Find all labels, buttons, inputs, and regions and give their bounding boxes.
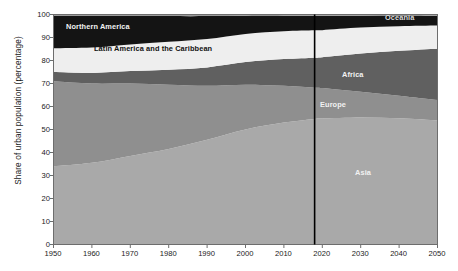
x-tick-1950: 1950 [33,250,73,258]
x-tick-1960: 1960 [71,250,111,258]
x-axis-tick-labels: 1950 1960 1970 1980 1990 2000 2010 2020 … [0,0,458,271]
x-tick-1970: 1970 [110,250,150,258]
x-tick-2050: 2050 [417,250,457,258]
x-tick-1980: 1980 [148,250,188,258]
stacked-area-chart: Share of urban population (percentage) 1… [0,0,458,271]
x-tick-1990: 1990 [187,250,227,258]
x-tick-2030: 2030 [340,250,380,258]
x-tick-2000: 2000 [225,250,265,258]
x-tick-2020: 2020 [302,250,342,258]
x-tick-2010: 2010 [263,250,303,258]
x-tick-2040: 2040 [379,250,419,258]
